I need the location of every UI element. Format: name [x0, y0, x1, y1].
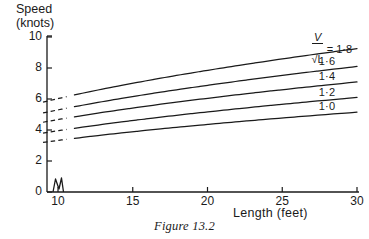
- y-tick-label-6: 6: [20, 92, 42, 105]
- y-tick-label-2: 2: [20, 154, 42, 167]
- ratio-numerator: V: [312, 31, 323, 44]
- y-tick-label-4: 4: [20, 123, 42, 136]
- curve-label-1·4: 1·4: [312, 70, 342, 82]
- y-tick-label-0: 0: [20, 185, 42, 198]
- y-axis-title: Speed(knots): [16, 2, 54, 30]
- figure-13-2: Speed(knots) Length (feet) Figure 13.2 V…: [0, 0, 369, 239]
- curve-label-1·0: 1·0: [312, 100, 342, 112]
- curve-1·0: [74, 112, 357, 138]
- curve-label-1·2: 1·2: [312, 86, 342, 98]
- ratio-fraction: V √L: [291, 21, 326, 76]
- ratio-equals-value: = 1·8: [326, 43, 352, 55]
- y-axis-title-line2: (knots): [16, 16, 54, 30]
- x-tick-label-20: 20: [195, 195, 221, 208]
- x-tick-label-30: 30: [344, 195, 369, 208]
- figure-caption: Figure 13.2: [0, 219, 369, 233]
- y-axis-title-line1: Speed: [16, 2, 52, 16]
- x-tick-label-25: 25: [269, 195, 295, 208]
- y-tick-label-8: 8: [20, 61, 42, 74]
- curve-label-1·6: 1·6: [312, 55, 342, 67]
- y-tick-label-10: 10: [20, 30, 42, 43]
- x-tick-label-15: 15: [120, 195, 146, 208]
- x-tick-label-10: 10: [45, 195, 71, 208]
